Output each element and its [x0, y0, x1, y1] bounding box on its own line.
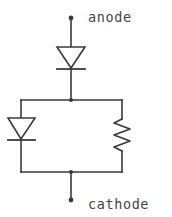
anode-terminal-dot: [69, 16, 74, 21]
branch-diode-triangle-icon: [8, 118, 35, 139]
series-diode-triangle-icon: [57, 47, 85, 68]
circuit-schematic: anode cathode: [0, 0, 172, 217]
resistor-zigzag-icon: [114, 119, 130, 151]
schematic-canvas: [0, 0, 172, 217]
top-junction-dot: [69, 98, 73, 102]
anode-label: anode: [88, 11, 132, 25]
cathode-label: cathode: [88, 198, 149, 212]
cathode-terminal-dot: [69, 198, 74, 203]
